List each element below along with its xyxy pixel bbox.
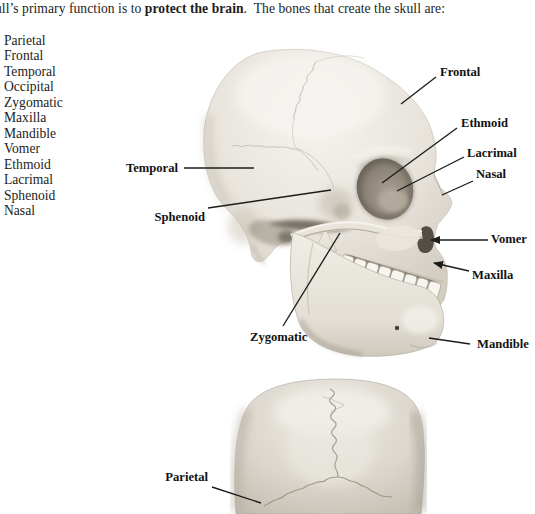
figure-label-lacrimal: Lacrimal [467,146,517,160]
leader-line-frontal [401,77,436,104]
figure-label-sphenoid: Sphenoid [155,210,205,224]
figure-label-parietal: Parietal [165,470,208,484]
mental-foramen [395,326,399,330]
figure-label-frontal: Frontal [440,65,480,79]
figure-label-zygomatic: Zygomatic [250,330,307,344]
textbook-page: ull’s primary function is to protect the… [0,0,535,514]
figure-label-vomer: Vomer [491,232,527,246]
figure-label-mandible: Mandible [477,337,529,351]
posterior-center-highlight [285,415,375,485]
orbit-inner-wall [378,190,408,212]
leader-line-nasal [442,181,473,195]
crown-highlight [235,53,385,137]
skull-posterior-illustration [235,379,425,514]
temporal-fossa-core [333,204,351,220]
chin-highlight [402,306,438,334]
figure-label-ethmoid: Ethmoid [461,116,508,130]
figure-label-maxilla: Maxilla [472,268,513,282]
figure-label-nasal: Nasal [476,167,506,181]
figure-label-temporal: Temporal [126,161,178,175]
